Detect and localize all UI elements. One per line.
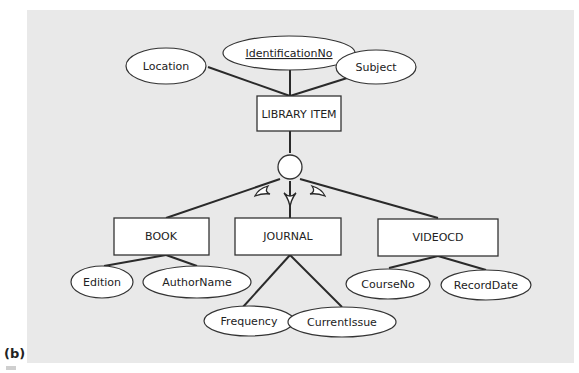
entity-book-label: BOOK bbox=[145, 230, 178, 243]
entity-library-item-label: LIBRARY ITEM bbox=[261, 108, 336, 121]
attribute-currentissue-label: CurrentIssue bbox=[307, 316, 377, 329]
attribute-subject-label: Subject bbox=[355, 61, 397, 74]
attribute-courseno-label: CourseNo bbox=[361, 278, 415, 291]
attribute-edition-label: Edition bbox=[83, 276, 121, 289]
attribute-authorname-label: AuthorName bbox=[162, 276, 232, 289]
attribute-frequency-label: Frequency bbox=[221, 315, 278, 328]
attribute-location-label: Location bbox=[143, 60, 190, 73]
entity-videocd-label: VIDEOCD bbox=[413, 231, 464, 244]
entity-journal-label: JOURNAL bbox=[262, 230, 313, 243]
panel-label: (b) bbox=[4, 346, 25, 361]
subset-symbol-videocd bbox=[310, 186, 325, 196]
specialization-circle bbox=[278, 155, 302, 179]
subset-symbol-journal bbox=[284, 193, 296, 209]
cropped-caption-fragment bbox=[6, 366, 16, 370]
attribute-identificationno-label: IdentificationNo bbox=[245, 47, 332, 60]
attribute-recorddate-label: RecordDate bbox=[454, 279, 519, 292]
er-diagram: LIBRARY ITEM Location IdentificationNo S… bbox=[0, 0, 579, 373]
